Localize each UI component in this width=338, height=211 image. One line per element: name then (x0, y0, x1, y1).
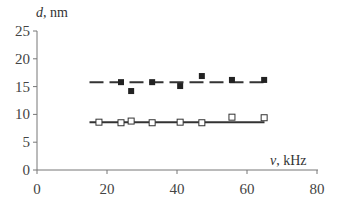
y-axis-title: d, nm (36, 5, 68, 20)
open-square-marker (199, 120, 205, 126)
open-square-marker (118, 120, 124, 126)
x-tick-label: 60 (240, 181, 255, 197)
x-tick-label: 20 (100, 181, 115, 197)
open-square-marker (96, 119, 102, 125)
filled-square-marker (128, 88, 134, 94)
x-axis-title: v, kHz (270, 153, 307, 168)
open-square-marker (177, 119, 183, 125)
fit-lines (90, 82, 265, 122)
data-points (96, 73, 267, 126)
x-tick-label: 0 (33, 181, 41, 197)
y-tick-label: 15 (15, 79, 30, 95)
open-square-marker (261, 115, 267, 121)
y-tick-label: 0 (23, 162, 31, 178)
filled-square-marker (199, 73, 205, 79)
y-tick-label: 25 (15, 23, 30, 39)
y-tick-label: 10 (15, 106, 30, 122)
open-square-marker (128, 118, 134, 124)
x-tick-label: 40 (170, 181, 185, 197)
y-tick-label: 20 (15, 51, 30, 67)
filled-square-marker (261, 77, 267, 83)
filled-square-marker (149, 79, 155, 85)
open-square-marker (229, 114, 235, 120)
y-tick-label: 5 (23, 134, 31, 150)
filled-square-marker (177, 83, 183, 89)
axes: 0204060800510152025 (15, 23, 325, 197)
open-square-marker (149, 120, 155, 126)
filled-square-marker (229, 77, 235, 83)
chart: 0204060800510152025 d, nm v, kHz (0, 0, 338, 211)
filled-square-marker (118, 79, 124, 85)
x-tick-label: 80 (310, 181, 325, 197)
